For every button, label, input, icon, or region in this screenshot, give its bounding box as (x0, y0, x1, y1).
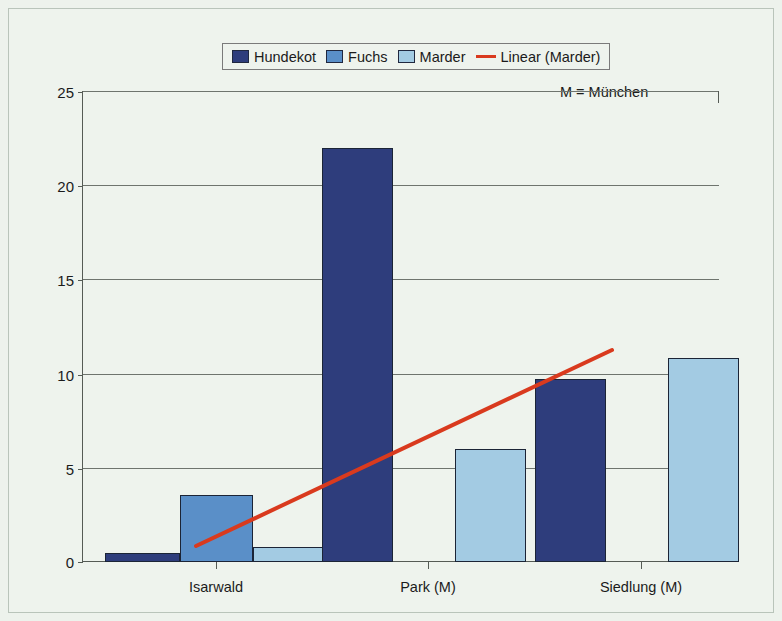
bar-isarwald-fuchs (180, 495, 253, 562)
ytick-mark-25 (78, 92, 83, 93)
gridline-10: 10 (83, 374, 719, 375)
legend-label-marder: Marder (420, 49, 466, 65)
legend-label-fuchs: Fuchs (348, 49, 388, 65)
bar-isarwald-marder (253, 547, 328, 562)
legend-label-linear-marder: Linear (Marder) (501, 49, 601, 65)
xtick-siedlung (641, 562, 642, 569)
ytick-mark-5 (78, 469, 83, 470)
legend-item-fuchs: Fuchs (326, 49, 388, 65)
ytick-mark-20 (78, 186, 83, 187)
ytick-mark-15 (78, 280, 83, 281)
ytick-label-15: 15 (57, 272, 74, 289)
plot-area: 25 20 15 10 5 0 Isarwald (82, 91, 719, 562)
xlabel-siedlung: Siedlung (M) (600, 579, 682, 595)
ytick-label-10: 10 (57, 366, 74, 383)
gridline-20: 20 (83, 185, 719, 186)
legend-item-marder: Marder (398, 49, 466, 65)
legend-item-hundekot: Hundekot (232, 49, 316, 65)
ytick-mark-0 (78, 562, 83, 563)
ytick-label-5: 5 (66, 460, 74, 477)
bar-park-hundekot (322, 148, 393, 563)
legend-label-hundekot: Hundekot (254, 49, 316, 65)
chart-page: Hundekot Fuchs Marder Linear (Marder) M … (0, 0, 782, 621)
xlabel-park: Park (M) (400, 579, 456, 595)
ytick-label-20: 20 (57, 178, 74, 195)
legend-item-linear-marder: Linear (Marder) (476, 49, 601, 65)
legend-swatch-hundekot (232, 50, 249, 63)
legend-line-icon (476, 55, 496, 58)
bar-siedlung-marder (668, 358, 739, 563)
legend-swatch-marder (398, 50, 415, 63)
xlabel-isarwald: Isarwald (189, 579, 243, 595)
xtick-park (428, 562, 429, 569)
bar-isarwald-hundekot (105, 553, 180, 562)
gridline-5: 5 (83, 468, 719, 469)
ytick-mark-10 (78, 375, 83, 376)
bar-siedlung-hundekot (535, 379, 606, 562)
axis-right-cap-top (718, 91, 719, 103)
bar-park-marder (455, 449, 526, 562)
gridline-25: 25 (83, 91, 719, 92)
xtick-isarwald (216, 562, 217, 569)
ytick-label-0: 0 (66, 554, 74, 571)
legend-swatch-fuchs (326, 50, 343, 63)
ytick-label-25: 25 (57, 84, 74, 101)
chart-legend: Hundekot Fuchs Marder Linear (Marder) (222, 43, 610, 70)
gridline-15: 15 (83, 279, 719, 280)
